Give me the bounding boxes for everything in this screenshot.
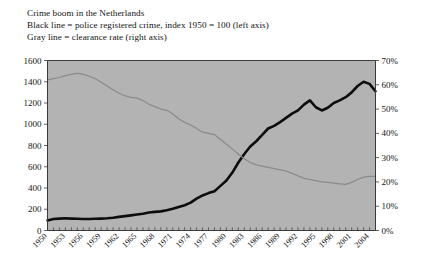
x-axis-tick-label: 1962 (102, 232, 120, 250)
x-axis-tick-label: 1950 (31, 232, 49, 250)
x-axis-tick-label: 1968 (138, 232, 156, 250)
right-axis-tick-label: 0% (382, 226, 395, 236)
x-axis-tick-label: 1959 (84, 232, 102, 250)
x-axis-tick-label: 1971 (156, 232, 174, 250)
left-axis-tick-label: 1200 (24, 98, 43, 108)
x-axis-tick-label: 1986 (246, 232, 264, 250)
x-axis-tick-label: 1965 (120, 232, 138, 250)
x-axis-tick-label: 1998 (317, 232, 335, 250)
left-axis-tick-label: 800 (28, 141, 42, 151)
left-axis-tick-label: 400 (28, 183, 42, 193)
right-axis-tick-label: 60% (382, 80, 399, 90)
chart-plot-area: 020040060080010001200140016000%10%20%30%… (0, 0, 425, 269)
plot-background (48, 61, 376, 231)
left-axis-tick-label: 1000 (24, 119, 43, 129)
x-axis-tick-label: 1956 (67, 232, 85, 250)
x-axis-tick-label: 1995 (299, 232, 317, 250)
figure-container: Crime boom in the Netherlands Black line… (0, 0, 425, 269)
x-axis-tick-label: 2001 (335, 232, 353, 250)
x-axis-tick-label: 1977 (192, 232, 210, 250)
line-chart: 020040060080010001200140016000%10%20%30%… (0, 0, 425, 269)
x-axis-tick-label: 1974 (174, 231, 193, 250)
x-axis-tick-label: 1980 (210, 232, 228, 250)
right-axis-tick-label: 30% (382, 153, 399, 163)
left-axis-tick-label: 200 (28, 204, 42, 214)
x-axis-tick-label: 2004 (353, 231, 372, 250)
right-axis-tick-label: 70% (382, 56, 399, 66)
left-axis-tick-label: 1600 (24, 56, 43, 66)
plot-background-layer (48, 61, 376, 231)
right-axis-tick-label: 20% (382, 177, 399, 187)
left-axis-tick-label: 600 (28, 162, 42, 172)
x-axis-tick-label: 1983 (228, 232, 246, 250)
right-axis-tick-label: 50% (382, 104, 399, 114)
left-axis-tick-label: 1400 (24, 77, 43, 87)
x-axis-tick-label: 1992 (281, 232, 299, 250)
x-axis-tick-label: 1989 (263, 232, 281, 250)
x-axis-tick-label: 1953 (49, 232, 67, 250)
right-axis-tick-label: 40% (382, 128, 399, 138)
right-axis-tick-label: 10% (382, 201, 399, 211)
